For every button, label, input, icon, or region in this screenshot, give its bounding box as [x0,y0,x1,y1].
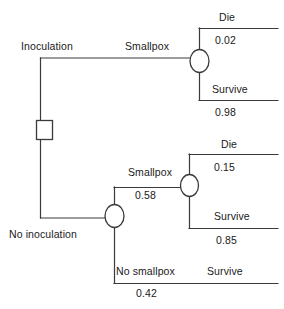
branch-prob-no-inoc-smallpox: 0.58 [135,189,156,201]
branch-prob-nis-survive: 0.85 [216,234,237,246]
branch-label-no-inoc-smallpox: Smallpox [128,166,172,178]
chance-node-no-inoculation [105,205,124,228]
branch-label-no-inoc-no-smallpox-survive: Survive [207,265,243,277]
decision-tree-diagram: Inoculation Smallpox Die 0.02 Survive 0.… [0,0,284,309]
branch-label-no-inoc-no-smallpox: No smallpox [116,265,175,277]
branch-label-nis-die: Die [221,138,237,150]
branch-label-nis-survive: Survive [214,210,250,222]
branch-prob-inoc-survive: 0.98 [215,106,236,118]
branch-label-inoculation: Inoculation [21,40,73,52]
decision-node-square [37,121,53,140]
branch-label-inoc-survive: Survive [212,83,248,95]
branch-label-no-inoculation: No inoculation [9,228,77,240]
branch-label-inoc-smallpox: Smallpox [125,40,169,52]
branch-prob-inoc-die: 0.02 [215,34,236,46]
chance-node-no-inoc-smallpox [181,175,199,197]
branch-label-inoc-die: Die [219,11,235,23]
branch-prob-no-inoc-no-smallpox: 0.42 [136,287,157,299]
branch-prob-nis-die: 0.15 [214,161,235,173]
chance-node-inoculation [190,50,209,73]
